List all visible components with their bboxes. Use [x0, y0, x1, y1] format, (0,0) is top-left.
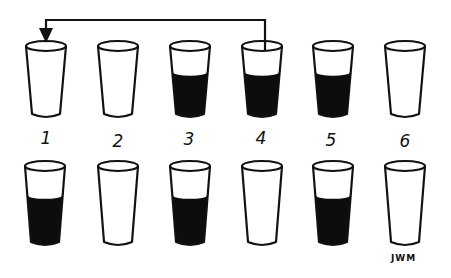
- pour-arrow-icon: [39, 20, 265, 50]
- glass-rim: [313, 161, 353, 171]
- glass-rim: [25, 161, 65, 171]
- glass-outline: [385, 166, 425, 245]
- glass-outline: [26, 46, 66, 117]
- bottom-glass-1: [25, 161, 65, 245]
- top-glass-1: [26, 41, 66, 117]
- glass-label-1: 1: [41, 128, 52, 148]
- liquid-fill: [244, 73, 279, 117]
- top-glass-6: [385, 41, 425, 117]
- liquid-fill: [172, 73, 207, 117]
- liquid-surface: [245, 69, 278, 75]
- bottom-glass-6: [385, 161, 425, 245]
- liquid-surface: [316, 192, 349, 198]
- liquid-surface: [173, 192, 206, 198]
- glass-outline: [98, 46, 138, 117]
- bottom-glass-3: [170, 161, 210, 245]
- glass-rim: [170, 161, 210, 171]
- glass-rim: [385, 41, 425, 51]
- glass-rim: [313, 41, 353, 51]
- liquid-fill: [315, 196, 350, 245]
- liquid-fill: [27, 196, 62, 245]
- glasses-puzzle-diagram: 1 2 3 4 5 6 JWM: [0, 0, 451, 278]
- glass-outline: [385, 46, 425, 117]
- liquid-surface: [28, 192, 61, 198]
- bottom-glass-5: [313, 161, 353, 245]
- glass-rim: [98, 41, 138, 51]
- bottom-glass-2: [98, 161, 138, 245]
- top-glass-2: [98, 41, 138, 117]
- glass-label-6: 6: [400, 131, 411, 151]
- liquid-surface: [173, 69, 206, 75]
- glass-label-3: 3: [184, 129, 195, 149]
- artist-signature: JWM: [391, 253, 416, 263]
- top-glass-5: [313, 41, 353, 117]
- glass-rim: [242, 41, 282, 51]
- glass-outline: [242, 166, 282, 245]
- glass-rim: [170, 41, 210, 51]
- diagram-artwork: [0, 0, 451, 278]
- bottom-glass-4: [242, 161, 282, 245]
- top-glass-4: [242, 41, 282, 117]
- glass-rim: [242, 161, 282, 171]
- glass-label-5: 5: [326, 130, 337, 150]
- liquid-fill: [315, 73, 350, 117]
- glass-label-4: 4: [256, 128, 267, 148]
- glass-rim: [385, 161, 425, 171]
- glass-rim: [98, 161, 138, 171]
- liquid-fill: [172, 196, 207, 245]
- liquid-surface: [316, 69, 349, 75]
- glass-label-2: 2: [113, 131, 124, 151]
- glass-outline: [98, 166, 138, 245]
- top-glass-3: [170, 41, 210, 117]
